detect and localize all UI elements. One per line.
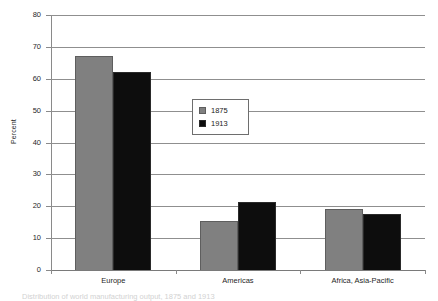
bar-chart: Percent 80706050403020100 EuropeAmericas… — [0, 0, 438, 301]
y-tick-label-80: 80 — [0, 11, 41, 19]
x-tick-mark-1 — [176, 270, 177, 274]
x-tick-mark-0 — [51, 270, 52, 274]
y-axis-title: Percent — [10, 92, 17, 172]
plot-area — [51, 15, 425, 270]
bar-1913-europe — [113, 72, 151, 270]
bar-1913-americas — [238, 202, 276, 270]
x-tick-mark-3 — [425, 270, 426, 274]
gridline-80 — [51, 15, 425, 16]
figure-caption: Distribution of world manufacturing outp… — [22, 293, 422, 301]
y-tick-label-20: 20 — [0, 202, 41, 210]
bar-1913-africa-asia-pacific — [363, 214, 401, 270]
x-tick-mark-2 — [300, 270, 301, 274]
x-tick-label-americas: Americas — [176, 277, 301, 285]
bar-1875-europe — [75, 56, 113, 270]
gridline-70 — [51, 47, 425, 48]
legend-label-1875: 1875 — [211, 107, 228, 115]
x-tick-label-africa-asia-pacific: Africa, Asia-Pacific — [300, 277, 425, 285]
y-tick-label-60: 60 — [0, 75, 41, 83]
y-tick-label-70: 70 — [0, 43, 41, 51]
legend-item-1913: 1913 — [199, 117, 248, 130]
legend-swatch-icon-1913 — [199, 120, 206, 127]
y-tick-label-50: 50 — [0, 107, 41, 115]
legend-item-1875: 1875 — [199, 104, 248, 117]
y-tick-label-30: 30 — [0, 170, 41, 178]
gridline-0 — [51, 270, 425, 271]
legend-swatch-icon-1875 — [199, 107, 206, 114]
chart-legend: 1875 1913 — [192, 99, 249, 135]
bar-1875-americas — [200, 221, 238, 270]
x-tick-label-europe: Europe — [51, 277, 176, 285]
y-tick-label-40: 40 — [0, 139, 41, 147]
legend-label-1913: 1913 — [211, 120, 228, 128]
y-tick-label-0: 0 — [0, 266, 41, 274]
y-tick-label-10: 10 — [0, 234, 41, 242]
bar-1875-africa-asia-pacific — [325, 209, 363, 270]
